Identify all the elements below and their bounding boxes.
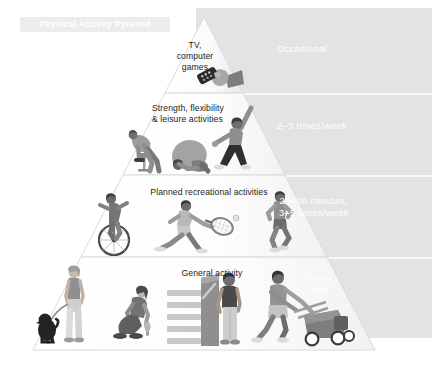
tier-4-activity-label: General activity — [158, 268, 266, 279]
title-banner: Physical Activity Pyramid — [20, 17, 170, 32]
weight-lifter-icon — [126, 125, 166, 173]
page-title: Physical Activity Pyramid — [20, 17, 170, 32]
cyclist-icon — [94, 188, 142, 258]
stretching-icon — [168, 133, 216, 175]
dog-walker-icon — [34, 262, 96, 348]
stair-climber-icon — [167, 268, 245, 348]
tennis-player-icon — [152, 196, 242, 256]
tier-2-frequency-label: 2–3 times/week — [247, 120, 377, 132]
tier-4-frequency-label: Every day — [285, 272, 355, 296]
tier-1-activity-label: TV, computer games — [168, 40, 222, 74]
tier-1-frequency-label: Occasional — [237, 43, 367, 55]
gardener-icon — [108, 282, 160, 344]
tier-3-frequency-label: 20–30 minutes, 3–5 times/week — [248, 195, 380, 219]
